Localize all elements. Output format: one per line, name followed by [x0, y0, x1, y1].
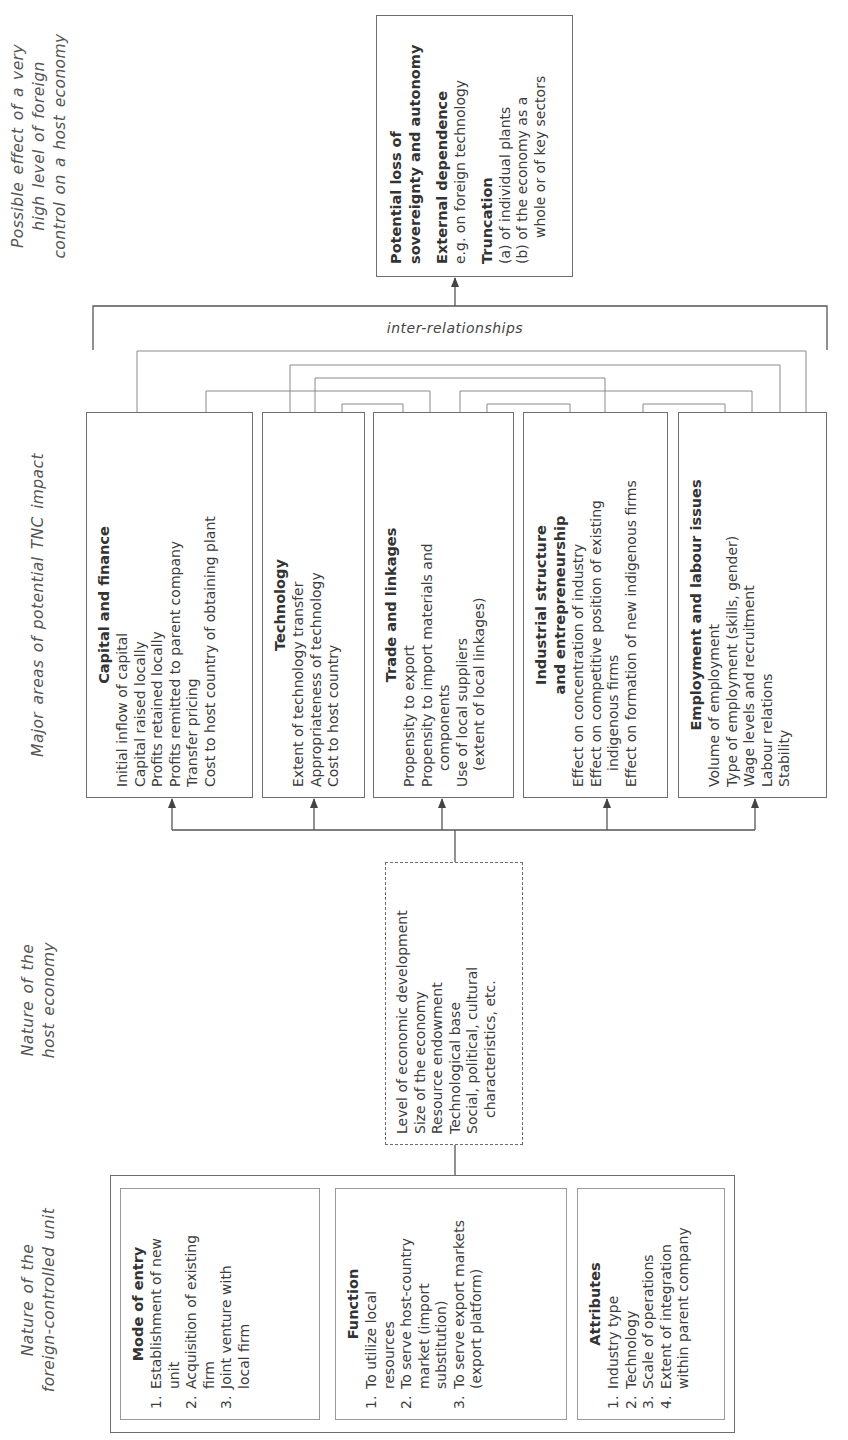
column-title-tnc-impact: Major areas of potential TNC impact	[28, 410, 49, 800]
attributes-title: Attributes	[586, 1199, 605, 1409]
mode-of-entry-box: Mode of entry 1.Establishment of newunit…	[120, 1188, 320, 1420]
list-item: 2.Technology	[623, 1199, 641, 1409]
mode-of-entry-list: 1.Establishment of newunit 2.Acquisition…	[148, 1199, 253, 1409]
attributes-box: Attributes 1.Industry type 2.Technology …	[577, 1188, 725, 1420]
possible-effect-box: Potential loss of sovereignty and autono…	[376, 15, 573, 277]
column-title-possible-effect: Possible effect of a very high level of …	[8, 12, 71, 280]
list-item: 4.Extent of integrationwithin parent com…	[658, 1199, 693, 1409]
sovereignty-title: Potential loss of sovereignty and autono…	[387, 28, 425, 264]
employment-labour-box: Employment and labour issues Volume of e…	[678, 412, 827, 798]
capital-finance-box: Capital and finance Initial inflow of ca…	[86, 412, 253, 798]
trade-linkages-box: Trade and linkages Propensity to export …	[373, 412, 514, 798]
external-dependence-title: External dependence	[433, 28, 452, 264]
list-item: 1.Establishment of newunit	[148, 1199, 183, 1409]
diagram-canvas: inter-relationships Nature of the foreig…	[0, 0, 848, 1440]
column-title-foreign-unit: Nature of the foreign-controlled unit	[18, 1170, 60, 1430]
attributes-list: 1.Industry type 2.Technology 3.Scale of …	[605, 1199, 693, 1409]
list-item: 1.To utilize localresources	[363, 1199, 398, 1409]
host-economy-box: Level of economic development Size of th…	[385, 862, 523, 1145]
industrial-structure-box: Industrial structure and entrepreneurshi…	[523, 412, 668, 798]
technology-box: Technology Extent of technology transfer…	[262, 412, 365, 798]
truncation-title: Truncation	[478, 28, 497, 264]
function-list: 1.To utilize localresources 2.To serve h…	[363, 1199, 486, 1409]
list-item: 3.To serve export markets(export platfor…	[451, 1199, 486, 1409]
list-item: 3.Scale of operations	[640, 1199, 658, 1409]
column-title-host-economy: Nature of the host economy	[18, 880, 60, 1120]
function-title: Function	[344, 1199, 363, 1409]
function-box: Function 1.To utilize localresources 2.T…	[335, 1188, 567, 1420]
mode-of-entry-title: Mode of entry	[129, 1199, 148, 1409]
list-item: 2.Acquisition of existingfirm	[183, 1199, 218, 1409]
list-item: 1.Industry type	[605, 1199, 623, 1409]
list-item: 2.To serve host-countrymarket (importsub…	[398, 1199, 451, 1409]
list-item: 3.Joint venture withlocal firm	[218, 1199, 253, 1409]
